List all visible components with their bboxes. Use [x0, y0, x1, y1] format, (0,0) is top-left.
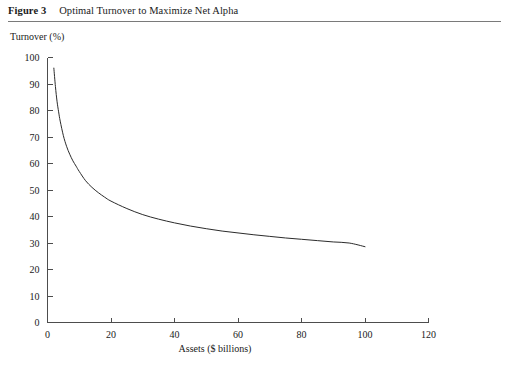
- x-tick-label: 0: [45, 329, 50, 340]
- x-tick-label: 80: [297, 329, 307, 340]
- x-tick-label: 60: [233, 329, 243, 340]
- y-tick-label: 30: [30, 238, 40, 249]
- x-tick-label: 40: [170, 329, 180, 340]
- y-tick-label: 40: [30, 211, 40, 222]
- series-line-optimal-turnover: [54, 68, 365, 247]
- x-tick-label: 100: [358, 329, 373, 340]
- y-tick-label: 50: [30, 185, 40, 196]
- y-tick-label: 70: [30, 132, 40, 143]
- x-tick-label: 120: [421, 329, 436, 340]
- y-axis-ticks: 0102030405060708090100: [25, 52, 53, 328]
- x-axis-ticks: 020406080100120: [45, 318, 436, 340]
- axes-group: [48, 58, 429, 323]
- y-tick-label: 10: [30, 291, 40, 302]
- y-tick-label: 80: [30, 105, 40, 116]
- y-tick-label: 60: [30, 158, 40, 169]
- x-axis-title: Assets ($ billions): [0, 343, 430, 354]
- y-tick-label: 100: [25, 52, 40, 63]
- data-series-group: [54, 68, 365, 247]
- y-tick-label: 20: [30, 264, 40, 275]
- y-tick-label: 90: [30, 79, 40, 90]
- line-chart-plot: 0102030405060708090100 020406080100120: [0, 0, 509, 372]
- y-tick-label: 0: [35, 317, 40, 328]
- figure-container: Figure 3Optimal Turnover to Maximize Net…: [0, 0, 509, 372]
- x-tick-label: 20: [106, 329, 116, 340]
